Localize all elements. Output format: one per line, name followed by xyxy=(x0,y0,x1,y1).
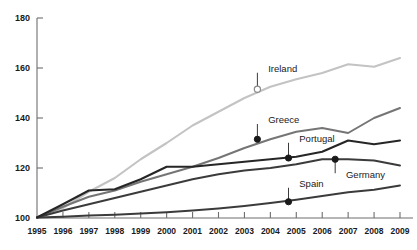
series-line-greece xyxy=(37,108,400,218)
x-tick-label: 2001 xyxy=(183,226,202,236)
series-label-greece: Greece xyxy=(268,114,299,125)
x-tick-label: 2003 xyxy=(235,226,254,236)
marker-ireland xyxy=(254,86,260,92)
x-tick-label: 2002 xyxy=(209,226,228,236)
x-tick-label: 2007 xyxy=(339,226,358,236)
x-tick-label: 1995 xyxy=(28,226,47,236)
x-tick-label: 1998 xyxy=(105,226,124,236)
chart-container: 100120140160180 199519961997199819992000… xyxy=(0,0,417,250)
marker-portugal xyxy=(285,155,291,161)
y-tick-label: 100 xyxy=(15,213,30,223)
x-tick-label: 1999 xyxy=(131,226,150,236)
series-lines xyxy=(37,58,400,218)
x-tick-label: 1996 xyxy=(53,226,72,236)
series-label-ireland: Ireland xyxy=(268,63,297,74)
x-tick-label: 2005 xyxy=(287,226,306,236)
x-tick-label: 2006 xyxy=(313,226,332,236)
marker-spain xyxy=(285,199,291,205)
series-label-germany: Germany xyxy=(346,169,385,180)
series-label-portugal: Portugal xyxy=(299,133,334,144)
x-tick-label: 2009 xyxy=(391,226,410,236)
x-tick-label: 2004 xyxy=(261,226,280,236)
x-tick-label: 2000 xyxy=(157,226,176,236)
marker-germany xyxy=(332,156,338,162)
series-label-spain: Spain xyxy=(299,178,323,189)
x-tick-label: 1997 xyxy=(79,226,98,236)
series-labels: IrelandGreecePortugalGermanySpain xyxy=(254,63,385,205)
line-chart-plot: 100120140160180 199519961997199819992000… xyxy=(0,0,417,250)
y-tick-label: 160 xyxy=(15,63,30,73)
y-tick-label: 180 xyxy=(15,13,30,23)
x-tick-label: 2008 xyxy=(365,226,384,236)
y-tick-label: 140 xyxy=(15,113,30,123)
marker-greece xyxy=(254,136,260,142)
y-tick-label: 120 xyxy=(15,163,30,173)
y-axis: 100120140160180 xyxy=(15,13,43,223)
